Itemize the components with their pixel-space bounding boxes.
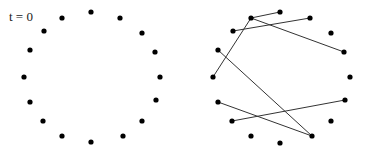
- graph-node: [215, 47, 220, 52]
- graph-node: [229, 118, 234, 123]
- graph-node: [342, 97, 347, 102]
- graph-edge: [251, 12, 280, 18]
- right-ring-panel: [210, 9, 352, 145]
- graph-node: [328, 118, 333, 123]
- time-label: t = 0: [9, 9, 33, 24]
- graph-node: [139, 118, 144, 123]
- graph-node: [230, 28, 235, 33]
- graph-node: [215, 99, 220, 104]
- graph-node: [21, 74, 26, 79]
- graph-node: [153, 97, 158, 102]
- graph-node: [277, 140, 282, 145]
- graph-node: [139, 30, 144, 35]
- graph-node: [59, 133, 64, 138]
- graph-node: [27, 99, 32, 104]
- graph-node: [59, 15, 64, 20]
- graph-node: [41, 28, 46, 33]
- graph-node: [88, 139, 93, 144]
- graph-node: [40, 118, 45, 123]
- graph-node: [277, 9, 282, 14]
- graph-edge: [232, 100, 345, 121]
- graph-node: [347, 74, 352, 79]
- graph-node: [27, 47, 32, 52]
- graph-edge: [233, 18, 310, 31]
- graph-diagram: t = 0: [0, 0, 369, 148]
- graph-node: [117, 15, 122, 20]
- graph-node: [328, 30, 333, 35]
- graph-node: [210, 74, 215, 79]
- graph-node: [248, 133, 253, 138]
- graph-node: [157, 74, 162, 79]
- graph-node: [309, 133, 314, 138]
- graph-node: [88, 9, 93, 14]
- graph-node: [307, 15, 312, 20]
- graph-node: [248, 15, 253, 20]
- left-ring-panel: [21, 9, 162, 144]
- graph-node: [152, 49, 157, 54]
- graph-node: [341, 49, 346, 54]
- graph-node: [120, 133, 125, 138]
